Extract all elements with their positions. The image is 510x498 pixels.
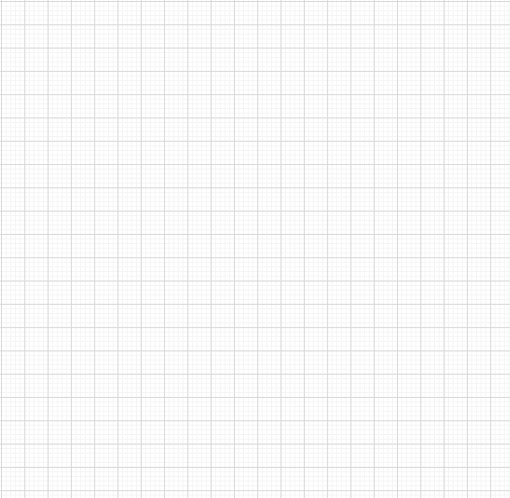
blank-grid-canvas[interactable] <box>0 0 510 498</box>
drawing-surface[interactable] <box>0 0 510 498</box>
